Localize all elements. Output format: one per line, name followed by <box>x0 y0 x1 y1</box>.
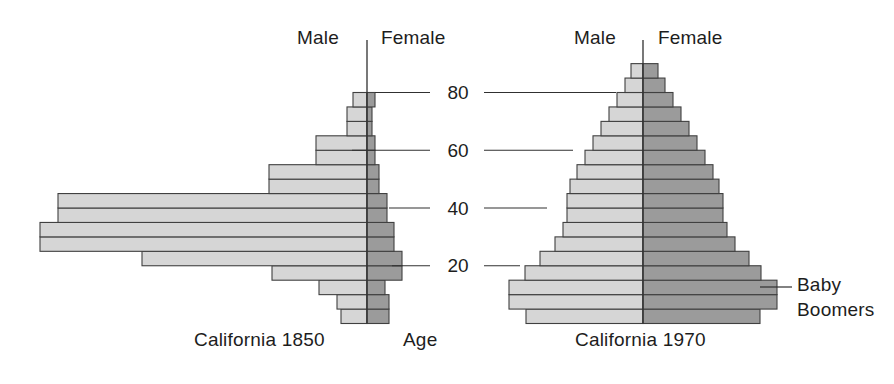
bar-1970-female-70-74 <box>643 107 681 121</box>
bar-1970-male-70-74 <box>609 107 643 121</box>
bar-1850-male-50-54 <box>269 165 367 179</box>
baby-boomers-annotation-line2: Boomers <box>797 299 874 321</box>
bar-1850-male-25-29 <box>40 237 367 251</box>
bar-1970-female-35-39 <box>643 208 723 222</box>
bar-1970-female-80-84 <box>643 78 665 92</box>
age-tick-80: 80 <box>438 82 478 104</box>
bar-1970-male-55-59 <box>585 150 643 164</box>
bar-1970-male-45-49 <box>570 179 643 193</box>
bar-1850-male-70-74 <box>347 107 367 121</box>
age-tick-40: 40 <box>438 198 478 220</box>
bar-1850-female-70-74 <box>367 107 372 121</box>
bar-1850-female-5-9 <box>367 295 389 309</box>
bar-1850-female-0-4 <box>367 309 389 323</box>
panel-1970-caption: California 1970 <box>575 329 706 351</box>
bar-1850-male-65-69 <box>347 121 367 135</box>
bar-1850-male-35-39 <box>58 208 367 222</box>
population-pyramid-figure: Male Female California 1850 Male Female … <box>0 0 894 384</box>
bar-1850-male-45-49 <box>269 179 367 193</box>
bar-1970-female-10-14 <box>643 280 777 294</box>
bar-1970-female-55-59 <box>643 150 705 164</box>
bar-1970-male-75-79 <box>617 93 643 107</box>
bar-1850-male-40-44 <box>58 194 367 208</box>
bar-1850-male-30-34 <box>40 222 367 236</box>
bar-1850-female-25-29 <box>367 237 394 251</box>
bar-1850-male-0-4 <box>341 309 367 323</box>
bar-1970-male-0-4 <box>526 309 643 323</box>
bar-1970-male-35-39 <box>567 208 643 222</box>
bar-1850-female-35-39 <box>367 208 387 222</box>
bar-1970-female-65-69 <box>643 121 689 135</box>
panel-1850-female-label: Female <box>381 27 446 49</box>
bar-1850-female-30-34 <box>367 222 394 236</box>
bar-1850-male-15-19 <box>272 266 367 280</box>
panel-1850-male-label: Male <box>297 27 339 49</box>
bar-1850-male-60-64 <box>316 136 367 150</box>
baby-boomers-annotation-line1: Baby <box>797 274 841 296</box>
bar-1970-female-5-9 <box>643 295 777 309</box>
bar-1850-male-10-14 <box>319 280 367 294</box>
bar-1970-male-25-29 <box>555 237 643 251</box>
bar-1970-male-5-9 <box>509 295 643 309</box>
bar-1970-male-65-69 <box>601 121 643 135</box>
panel-1970-male-label: Male <box>574 27 616 49</box>
panel-1970-female-label: Female <box>658 27 723 49</box>
bar-1970-male-20-24 <box>540 251 643 265</box>
bar-1850-female-65-69 <box>367 121 372 135</box>
bar-1850-male-20-24 <box>142 251 367 265</box>
bar-1850-female-75-79 <box>367 93 375 107</box>
bar-1850-female-10-14 <box>367 280 385 294</box>
bar-1970-male-10-14 <box>509 280 643 294</box>
age-axis-label: Age <box>403 329 437 351</box>
bar-1850-female-20-24 <box>367 251 402 265</box>
panel-1850-caption: California 1850 <box>194 329 325 351</box>
bar-1970-female-45-49 <box>643 179 719 193</box>
bar-1970-male-15-19 <box>525 266 643 280</box>
age-tick-20: 20 <box>438 255 478 277</box>
bar-1970-female-60-64 <box>643 136 697 150</box>
bar-1850-male-75-79 <box>353 93 367 107</box>
bar-1970-female-0-4 <box>643 309 760 323</box>
bar-1970-male-85+ <box>631 64 643 78</box>
bar-1970-male-60-64 <box>593 136 643 150</box>
age-tick-60: 60 <box>438 140 478 162</box>
bar-1970-female-25-29 <box>643 237 735 251</box>
bar-1970-female-75-79 <box>643 93 673 107</box>
bar-1970-female-85+ <box>643 64 658 78</box>
bar-1970-female-15-19 <box>643 266 761 280</box>
bar-1970-female-30-34 <box>643 222 727 236</box>
bar-1970-male-50-54 <box>577 165 643 179</box>
bar-1850-female-40-44 <box>367 194 387 208</box>
bar-1850-female-45-49 <box>367 179 379 193</box>
bar-1850-male-5-9 <box>337 295 367 309</box>
bar-1970-female-40-44 <box>643 194 723 208</box>
bar-1970-female-50-54 <box>643 165 713 179</box>
pyramid-canvas <box>0 0 894 384</box>
bar-1970-female-20-24 <box>643 251 749 265</box>
bar-1970-male-30-34 <box>563 222 643 236</box>
bar-1850-female-55-59 <box>367 150 375 164</box>
bar-1850-female-15-19 <box>367 266 402 280</box>
pyramid-1850 <box>40 93 402 324</box>
bar-1850-female-50-54 <box>367 165 379 179</box>
bar-1970-male-40-44 <box>567 194 643 208</box>
bar-1850-male-55-59 <box>316 150 367 164</box>
bar-1970-male-80-84 <box>625 78 643 92</box>
bar-1850-female-60-64 <box>367 136 375 150</box>
